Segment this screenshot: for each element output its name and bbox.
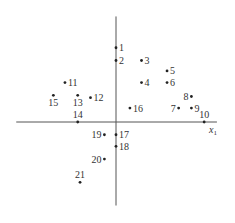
point-label-15: 15 — [48, 97, 58, 108]
point-marker-21 — [79, 181, 82, 184]
point-label-14: 14 — [73, 109, 83, 120]
x-axis-label-subscript: 1 — [213, 129, 217, 137]
point-label-6: 6 — [170, 77, 175, 88]
point-marker-16 — [129, 107, 132, 110]
points-group: 123456789101112131415161718192021 — [48, 42, 209, 183]
point-label-16: 16 — [133, 103, 143, 114]
point-label-1: 1 — [119, 42, 124, 53]
point-marker-20 — [103, 158, 106, 161]
point-label-21: 21 — [75, 169, 85, 180]
point-label-2: 2 — [119, 55, 124, 66]
point-label-7: 7 — [171, 103, 176, 114]
point-diagram: x1 123456789101112131415161718192021 — [0, 0, 235, 223]
point-marker-13 — [76, 94, 79, 97]
point-marker-15 — [52, 94, 55, 97]
point-marker-3 — [140, 59, 143, 62]
point-marker-17 — [115, 133, 118, 136]
x-axis-label: x1 — [208, 124, 217, 137]
point-label-17: 17 — [119, 129, 129, 140]
point-marker-14 — [76, 121, 79, 124]
point-marker-12 — [89, 96, 92, 99]
point-label-3: 3 — [145, 55, 150, 66]
point-marker-5 — [166, 70, 169, 73]
point-label-5: 5 — [170, 65, 175, 76]
point-label-12: 12 — [93, 92, 103, 103]
point-marker-9 — [190, 107, 193, 110]
point-marker-2 — [115, 59, 118, 62]
point-marker-1 — [115, 46, 118, 49]
point-marker-6 — [166, 81, 169, 84]
point-label-20: 20 — [91, 154, 101, 165]
point-marker-7 — [177, 107, 180, 110]
point-label-13: 13 — [73, 97, 83, 108]
point-label-11: 11 — [68, 77, 78, 88]
point-label-18: 18 — [119, 141, 129, 152]
point-label-19: 19 — [91, 129, 101, 140]
point-marker-18 — [115, 145, 118, 148]
point-marker-11 — [64, 81, 67, 84]
point-marker-10 — [203, 121, 206, 124]
point-label-4: 4 — [145, 77, 150, 88]
point-marker-8 — [190, 95, 193, 98]
point-label-10: 10 — [199, 109, 209, 120]
point-marker-4 — [140, 81, 143, 84]
point-label-8: 8 — [183, 91, 188, 102]
point-marker-19 — [103, 133, 106, 136]
